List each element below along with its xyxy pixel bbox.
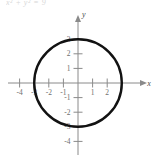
x-tick-label--4: -4 <box>16 88 22 97</box>
y-tick-label--4: -4 <box>64 137 70 146</box>
y-tick-label--2: -2 <box>64 108 70 117</box>
x-tick-label-1: 1 <box>91 88 95 97</box>
x-tick-label-2: 2 <box>105 88 109 97</box>
y-tick-label-1: 1 <box>67 64 71 73</box>
y-tick-label--1: -1 <box>64 93 70 102</box>
cartesian-plot: -4 -3 -2 -1 1 2 3 2 1 -1 -2 -3 -4 x y <box>0 0 156 161</box>
y-tick-label-2: 2 <box>67 49 71 58</box>
y-axis-arrow-icon <box>75 15 81 22</box>
x-tick-label--2: -2 <box>46 88 52 97</box>
x-axis-label: x <box>146 79 151 88</box>
x-axis-arrow-icon <box>140 80 147 86</box>
y-axis-label: y <box>81 10 86 19</box>
graph-figure: x² + y² = 9 -4 -3 -2 -1 1 2 3 2 1 - <box>0 0 156 161</box>
